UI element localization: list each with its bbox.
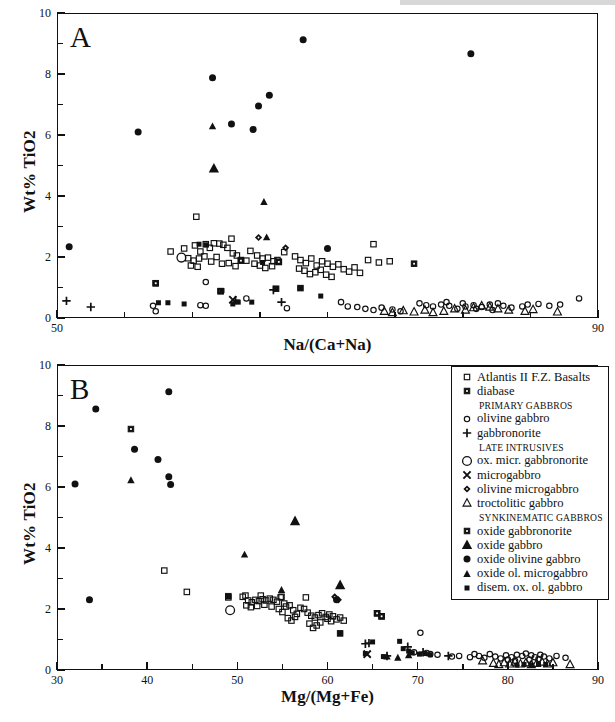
- y-tick-label: 8: [29, 419, 51, 434]
- x-tick-major: [237, 662, 239, 670]
- y-tick-major: [57, 364, 65, 366]
- y-tick-major: [57, 669, 65, 671]
- legend-item[interactable]: microgabbro: [457, 468, 602, 482]
- x-tick-minor: [530, 312, 532, 318]
- x-tick-label: 90: [585, 673, 611, 688]
- y-tick-label: 2: [29, 250, 51, 265]
- panel-b-x-axis-label: Mg/(Mg+Fe): [57, 687, 598, 707]
- x-tick-label: 30: [44, 673, 70, 688]
- legend-item-label: troctolitic gabbro: [477, 496, 563, 511]
- legend-item[interactable]: Atlantis II F.Z. Basalts: [457, 370, 602, 384]
- y-tick-major: [57, 256, 65, 258]
- y-tick-minor: [57, 165, 63, 167]
- legend-item[interactable]: gabbronorite: [457, 426, 602, 440]
- x-tick-label: 70: [405, 673, 431, 688]
- x-tick-minor: [552, 664, 554, 670]
- legend-marker-dotted-square-icon: [457, 384, 477, 398]
- x-tick-minor: [124, 312, 126, 318]
- x-tick-major: [597, 662, 599, 670]
- y-tick-minor: [57, 287, 63, 289]
- x-tick-major: [146, 662, 148, 670]
- legend-item[interactable]: oxide olivine gabbro: [457, 552, 602, 566]
- legend-item-label: diabase: [477, 384, 514, 399]
- series-oxide-ol-microgabbro: [127, 476, 412, 660]
- y-tick-major: [57, 73, 65, 75]
- x-tick-major: [417, 662, 419, 670]
- x-tick-label: 90: [585, 321, 611, 336]
- panel-b-letter: B: [70, 375, 89, 404]
- x-tick-label: 50: [44, 321, 70, 336]
- x-tick-minor: [462, 312, 464, 318]
- series-olivine-gabbro: [150, 279, 581, 314]
- x-tick-label: 40: [134, 673, 160, 688]
- legend-item-label: oxide gabbronorite: [477, 524, 572, 539]
- legend-item-label: Atlantis II F.Z. Basalts: [477, 370, 590, 385]
- y-tick-label: 6: [29, 480, 51, 495]
- y-tick-label: 10: [29, 358, 51, 373]
- y-tick-minor: [57, 517, 63, 519]
- x-tick-minor: [394, 312, 396, 318]
- series-ox-micr-gabbronorite: [177, 253, 186, 262]
- series-gabbronorite: [62, 286, 285, 311]
- x-tick-minor: [372, 664, 374, 670]
- legend-item[interactable]: olivine gabbro: [457, 412, 602, 426]
- y-tick-label: 10: [29, 6, 51, 21]
- y-tick-minor: [57, 639, 63, 641]
- y-tick-major: [57, 12, 65, 14]
- x-tick-label: 60: [315, 673, 341, 688]
- x-tick-minor: [192, 312, 194, 318]
- x-tick-minor: [327, 312, 329, 318]
- y-tick-major: [57, 317, 65, 319]
- x-tick-minor: [282, 664, 284, 670]
- legend-item[interactable]: olivine microgabbro: [457, 482, 602, 496]
- series-olivine-gabbro: [411, 630, 568, 663]
- legend-item[interactable]: oxide ol. microgabbro: [457, 567, 602, 581]
- series-oxide-gabbro: [290, 516, 345, 590]
- legend-marker-open-triangle-icon: [457, 496, 477, 510]
- legend: Atlantis II F.Z. BasaltsdiabasePRIMARY G…: [451, 366, 609, 600]
- panel-a-data-layer: [57, 13, 598, 318]
- legend-group-header: PRIMARY GABBROS: [457, 398, 602, 412]
- series-oxide-gabbronorite: [153, 280, 303, 294]
- x-tick-major: [597, 310, 599, 318]
- legend-group-header: LATE INTRUSIVES: [457, 440, 602, 454]
- x-tick-minor: [101, 664, 103, 670]
- legend-item[interactable]: ox. micr. gabbronorite: [457, 454, 602, 468]
- y-tick-minor: [57, 395, 63, 397]
- legend-item-label: microgabbro: [477, 468, 541, 483]
- legend-item[interactable]: oxide gabbronorite: [457, 524, 602, 538]
- x-tick-major: [327, 662, 329, 670]
- legend-item-label: olivine gabbro: [477, 411, 550, 426]
- x-tick-minor: [462, 664, 464, 670]
- legend-marker-plus-icon: [457, 426, 477, 440]
- legend-item[interactable]: oxide gabbro: [457, 538, 602, 552]
- legend-marker-open-square-small-icon: [457, 370, 477, 384]
- legend-marker-filled-circle-icon: [457, 552, 477, 566]
- x-tick-label: 50: [224, 673, 250, 688]
- y-tick-major: [57, 486, 65, 488]
- legend-marker-filled-triangle-small-icon: [457, 567, 477, 581]
- legend-item-label: gabbronorite: [477, 426, 541, 441]
- legend-item[interactable]: diabase: [457, 384, 602, 398]
- y-tick-label: 2: [29, 602, 51, 617]
- y-tick-major: [57, 547, 65, 549]
- panel-a-letter: A: [70, 23, 91, 52]
- legend-item[interactable]: troctolitic gabbro: [457, 496, 602, 510]
- legend-item-label: disem. ox. ol. gabbro: [477, 580, 583, 595]
- y-tick-major: [57, 608, 65, 610]
- series-diabase: [128, 426, 384, 619]
- series-atlantis-ii-f-z-basalts: [162, 568, 347, 631]
- legend-item-label: olivine microgabbro: [477, 482, 579, 497]
- legend-item-label: oxide gabbro: [477, 538, 543, 553]
- y-tick-minor: [57, 104, 63, 106]
- y-tick-minor: [57, 456, 63, 458]
- legend-item[interactable]: disem. ox. ol. gabbro: [457, 581, 602, 595]
- series-oxide-olivine-gabbro: [72, 388, 340, 603]
- figure-root: A Wt% TiO2 Na/(Ca+Na) 02468105090 B Wt% …: [0, 0, 615, 722]
- y-tick-label: 4: [29, 189, 51, 204]
- series-oxide-ol-microgabbro: [209, 122, 270, 240]
- legend-marker-filled-square-icon: [457, 581, 477, 595]
- x-tick-label: 80: [495, 673, 521, 688]
- y-tick-minor: [57, 43, 63, 45]
- series-olivine-microgabbro: [255, 234, 289, 252]
